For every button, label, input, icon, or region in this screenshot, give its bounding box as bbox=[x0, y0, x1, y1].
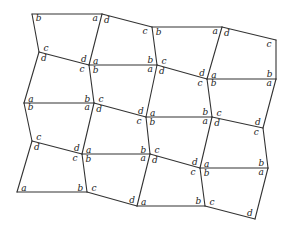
corner-label-tr: a bbox=[148, 64, 153, 74]
corner-label-bl: c bbox=[209, 197, 214, 207]
corner-label-bl: c bbox=[216, 108, 221, 118]
corner-label-br: d bbox=[74, 143, 80, 153]
corner-label-tr: a bbox=[93, 13, 98, 23]
corner-label-br: d bbox=[255, 117, 261, 127]
corner-label-tr: c bbox=[266, 39, 271, 49]
corner-label-tl: d bbox=[214, 118, 220, 128]
tiling-edges bbox=[17, 14, 276, 219]
corner-label-tl: b bbox=[28, 102, 34, 112]
corner-label-tr: c bbox=[254, 127, 259, 137]
corner-label-bl: c bbox=[36, 132, 41, 142]
corner-label-tr: a bbox=[266, 78, 271, 88]
corner-label-tl: b bbox=[93, 65, 99, 75]
corner-label-tl: d bbox=[34, 142, 40, 152]
corner-label-tl: d bbox=[224, 28, 230, 38]
corner-label-tr: a bbox=[85, 102, 90, 112]
corner-label-tr: a bbox=[141, 153, 146, 163]
corner-label-tl: d bbox=[96, 104, 102, 114]
corner-labels: badcdcbabadcdcbadcbabadcdcbabadcbadcdcba… bbox=[21, 13, 273, 218]
corner-label-tr: c bbox=[198, 78, 203, 88]
corner-label-br: d bbox=[247, 208, 253, 218]
corner-label-bl: a bbox=[21, 183, 26, 193]
corner-label-tr: c bbox=[136, 116, 141, 126]
corner-label-bl: c bbox=[43, 43, 48, 53]
corner-label-tl: b bbox=[36, 13, 42, 23]
corner-label-tr: c bbox=[73, 153, 78, 163]
corner-label-tl: b bbox=[156, 27, 162, 37]
corner-label-bl: c bbox=[98, 94, 103, 104]
corner-label-tr: c bbox=[80, 64, 85, 74]
corner-label-br: b bbox=[78, 183, 84, 193]
corner-label-bl: c bbox=[154, 145, 159, 155]
corner-label-tl: b bbox=[211, 78, 217, 88]
corner-label-tl: b bbox=[204, 168, 210, 178]
quadrilateral-tiling-diagram: badcdcbabadcdcbadcbabadcdcbabadcbadcdcba… bbox=[0, 0, 286, 229]
corner-label-br: d bbox=[138, 106, 144, 116]
corner-label-br: d bbox=[192, 157, 198, 167]
corner-label-tr: c bbox=[191, 167, 196, 177]
corner-label-br: d bbox=[199, 68, 205, 78]
corner-label-br: d bbox=[81, 54, 87, 64]
corner-label-bl: c bbox=[91, 183, 96, 193]
corner-label-bl: c bbox=[161, 56, 166, 66]
corner-label-br: d bbox=[129, 195, 135, 205]
corner-label-tl: b bbox=[86, 154, 92, 164]
corner-label-tl: d bbox=[41, 53, 47, 63]
corner-label-tl: b bbox=[150, 117, 156, 127]
corner-label-tl: d bbox=[152, 155, 158, 165]
corner-label-tl: d bbox=[104, 15, 110, 25]
corner-label-tr: a bbox=[203, 116, 208, 126]
corner-label-tr: c bbox=[143, 26, 148, 36]
corner-label-tl: d bbox=[159, 66, 165, 76]
corner-label-br: b bbox=[196, 196, 202, 206]
corner-label-bl: a bbox=[141, 197, 146, 207]
corner-label-tr: a bbox=[212, 26, 217, 36]
corner-label-tr: a bbox=[259, 167, 264, 177]
